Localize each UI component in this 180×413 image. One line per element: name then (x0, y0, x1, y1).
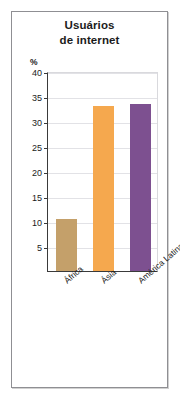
y-tick-label: 5 (37, 243, 42, 253)
chart-title-line-1: Usuários (11, 18, 168, 33)
y-tick-label: 20 (32, 168, 42, 178)
y-tick-label: 15 (32, 193, 42, 203)
y-tick-label: 40 (32, 68, 42, 78)
chart-title: Usuários de internet (11, 18, 168, 48)
bar-1 (56, 219, 77, 272)
y-tick-label: 10 (32, 218, 42, 228)
bar-2 (93, 106, 114, 271)
chart-title-line-2: de internet (11, 33, 168, 48)
y-axis-unit-label: % (30, 57, 38, 67)
y-tick-label: 25 (32, 143, 42, 153)
y-tick-label: 30 (32, 118, 42, 128)
bar-3 (130, 104, 151, 272)
plot-area: 510152025303540 (47, 72, 158, 272)
y-tick-label: 35 (32, 93, 42, 103)
bar-series (48, 73, 157, 271)
